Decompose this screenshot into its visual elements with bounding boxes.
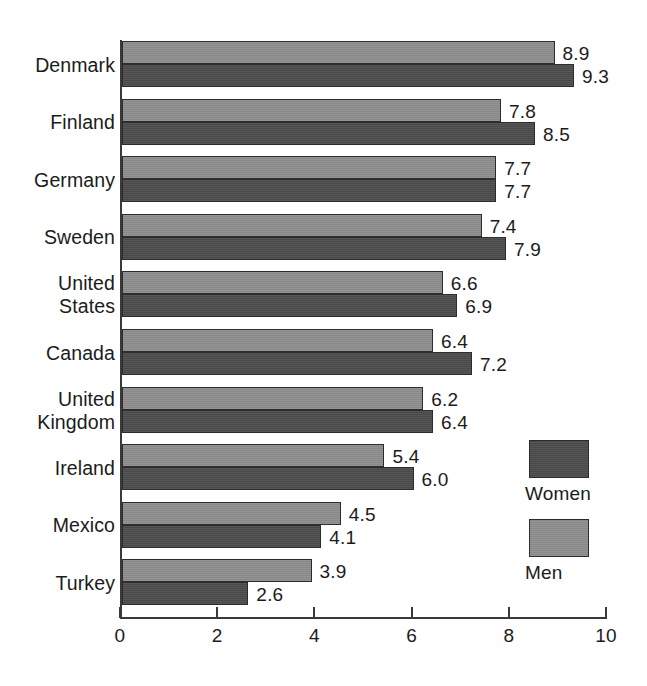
bar-value-label: 7.9 xyxy=(514,239,541,261)
bar-men xyxy=(122,387,423,410)
bar-men xyxy=(122,41,555,64)
category-label: Turkey xyxy=(0,572,115,595)
bar-men xyxy=(122,99,501,122)
bar-women xyxy=(122,237,506,260)
bar-women xyxy=(122,64,574,87)
light-gray-swatch xyxy=(529,519,589,557)
bar-value-label: 4.5 xyxy=(349,504,376,526)
x-axis-tick-label: 0 xyxy=(115,625,126,647)
bar-value-label: 2.6 xyxy=(256,584,283,606)
bar-group: Denmark8.99.3 xyxy=(0,41,647,99)
bar-men xyxy=(122,156,496,179)
bar-women xyxy=(122,525,321,548)
bar-group: Germany7.77.7 xyxy=(0,156,647,214)
bar-value-label: 6.4 xyxy=(441,412,468,434)
bar-value-label: 6.9 xyxy=(465,296,492,318)
bar-group: Sweden7.47.9 xyxy=(0,214,647,272)
bar-value-label: 6.0 xyxy=(422,469,449,491)
bar-women xyxy=(122,410,433,433)
bar-men xyxy=(122,444,384,467)
bar-value-label: 4.1 xyxy=(329,527,356,549)
bar-men xyxy=(122,214,482,237)
bar-women xyxy=(122,122,535,145)
category-label: Ireland xyxy=(0,457,115,480)
bar-women xyxy=(122,467,414,490)
bar-value-label: 9.3 xyxy=(582,66,609,88)
bar-men xyxy=(122,502,341,525)
bar-women xyxy=(122,294,457,317)
x-axis-tick-label: 6 xyxy=(406,625,417,647)
bar-value-label: 8.5 xyxy=(543,124,570,146)
legend-label-men: Men xyxy=(525,562,629,584)
bar-women xyxy=(122,179,496,202)
bar-value-label: 3.9 xyxy=(320,561,347,583)
bar-group: Finland7.88.5 xyxy=(0,99,647,157)
bar-value-label: 6.2 xyxy=(431,389,458,411)
dark-gray-swatch xyxy=(529,440,589,478)
bar-men xyxy=(122,329,433,352)
bar-value-label: 8.9 xyxy=(563,43,590,65)
legend-label-women: Women xyxy=(525,483,629,505)
x-axis-tick-label: 2 xyxy=(212,625,223,647)
bar-value-label: 6.6 xyxy=(451,273,478,295)
chart-legend: Women Men xyxy=(529,440,629,584)
bar-group: United States6.66.9 xyxy=(0,271,647,329)
bar-women xyxy=(122,352,472,375)
bar-group: United Kingdom6.26.4 xyxy=(0,387,647,445)
x-axis-tick-label: 4 xyxy=(309,625,320,647)
bar-chart: 0246810 Denmark8.99.3Finland7.88.5German… xyxy=(0,0,647,686)
category-label: United Kingdom xyxy=(0,388,115,434)
legend-item-men: Men xyxy=(529,519,629,584)
bar-men xyxy=(122,559,312,582)
bar-value-label: 7.8 xyxy=(509,101,536,123)
category-label: Finland xyxy=(0,111,115,134)
bar-value-label: 7.7 xyxy=(504,181,531,203)
bar-women xyxy=(122,582,248,605)
x-axis-tick-label: 10 xyxy=(595,625,617,647)
category-label: Germany xyxy=(0,169,115,192)
bar-value-label: 6.4 xyxy=(441,331,468,353)
category-label: Mexico xyxy=(0,514,115,537)
bar-men xyxy=(122,271,443,294)
bar-value-label: 7.7 xyxy=(504,158,531,180)
category-label: Canada xyxy=(0,342,115,365)
bar-group: Canada6.47.2 xyxy=(0,329,647,387)
category-label: Sweden xyxy=(0,226,115,249)
category-label: Denmark xyxy=(0,54,115,77)
legend-item-women: Women xyxy=(529,440,629,505)
x-axis-tick-label: 8 xyxy=(503,625,514,647)
x-axis-line xyxy=(120,617,607,619)
category-label: United States xyxy=(0,272,115,318)
bar-value-label: 5.4 xyxy=(392,446,419,468)
bar-value-label: 7.4 xyxy=(490,216,517,238)
bar-value-label: 7.2 xyxy=(480,354,507,376)
